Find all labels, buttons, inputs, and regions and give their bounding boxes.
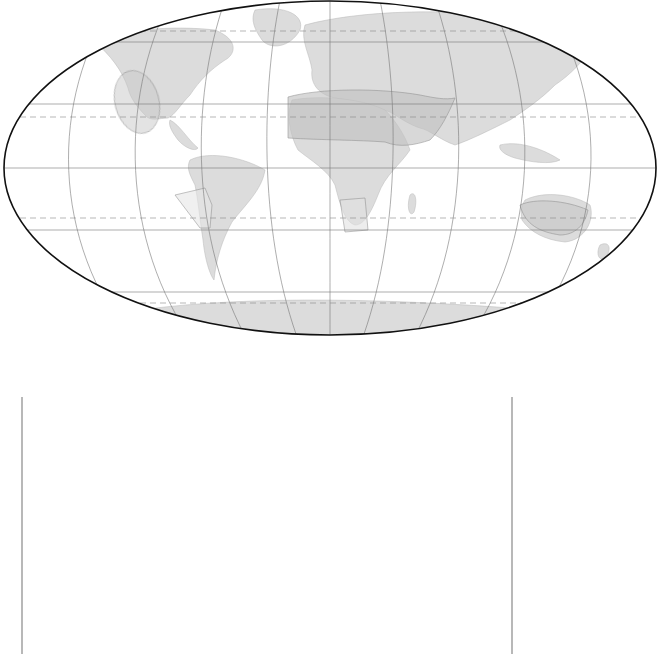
world-map — [0, 0, 659, 345]
climate-charts — [0, 345, 659, 659]
